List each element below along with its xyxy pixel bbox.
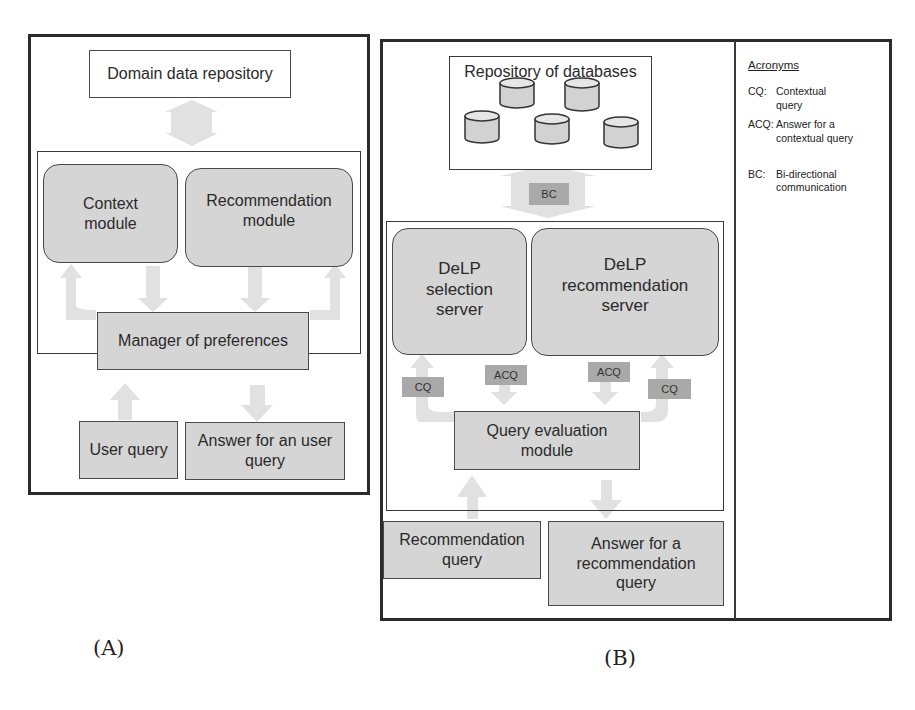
recommendation-module-label: Recommendation module: [199, 191, 339, 230]
domain-data-repository-label: Domain data repository: [107, 64, 272, 84]
acronyms-divider: [734, 41, 736, 619]
user-query-label: User query: [89, 440, 167, 460]
recommendation-query-label: Recommendation query: [392, 530, 532, 569]
acronyms-title: Acronyms: [748, 58, 888, 73]
acronym-abbr: BC:: [748, 168, 776, 195]
answer-for-recommendation-query: Answer for a recommendation query: [548, 521, 724, 606]
database-cluster: [449, 56, 652, 170]
delp-recommendation-server-label: DeLP recommendation server: [540, 255, 710, 317]
acronym-item: ACQ: Answer for a contextual query: [748, 118, 888, 145]
manager-of-preferences-label: Manager of preferences: [118, 331, 288, 351]
delp-selection-server: DeLP selection server: [392, 228, 527, 355]
cq-label-right: CQ: [648, 379, 691, 399]
bc-label: BC: [529, 183, 569, 205]
cq-label-left: CQ: [402, 377, 444, 397]
database-icon: [535, 114, 569, 144]
answer-for-recommendation-query-label: Answer for a recommendation query: [566, 534, 706, 593]
acronym-abbr: CQ:: [748, 85, 776, 112]
caption-a: (A): [93, 636, 125, 660]
manager-of-preferences: Manager of preferences: [97, 312, 309, 370]
domain-data-repository: Domain data repository: [89, 50, 291, 98]
answer-for-user-query: Answer for an user query: [185, 422, 345, 480]
database-icon: [604, 117, 638, 148]
acronym-item: BC: Bi-directional communication: [748, 168, 888, 195]
acronym-item: CQ: Contextual query: [748, 85, 888, 112]
recommendation-module: Recommendation module: [185, 168, 353, 267]
context-module: Context module: [43, 164, 178, 263]
database-icon: [565, 78, 599, 111]
database-icon: [465, 111, 499, 143]
acronym-abbr: ACQ:: [748, 118, 776, 145]
acronyms-legend: Acronyms CQ: Contextual query ACQ: Answe…: [748, 58, 888, 195]
acq-label-right: ACQ: [588, 362, 630, 382]
caption-b: (B): [604, 646, 636, 670]
query-evaluation-module-label: Query evaluation module: [477, 421, 617, 460]
recommendation-query: Recommendation query: [383, 521, 541, 579]
user-query: User query: [79, 421, 178, 479]
acronym-meaning: Bi-directional communication: [776, 168, 866, 195]
acq-label-left: ACQ: [485, 365, 527, 385]
context-module-label: Context module: [71, 194, 151, 233]
database-icon: [500, 78, 534, 108]
acronym-meaning: Contextual query: [776, 85, 846, 112]
answer-for-user-query-label: Answer for an user query: [190, 431, 340, 470]
delp-selection-server-label: DeLP selection server: [405, 259, 515, 321]
delp-recommendation-server: DeLP recommendation server: [531, 228, 719, 356]
query-evaluation-module: Query evaluation module: [454, 411, 640, 470]
acronym-meaning: Answer for a contextual query: [776, 118, 880, 145]
